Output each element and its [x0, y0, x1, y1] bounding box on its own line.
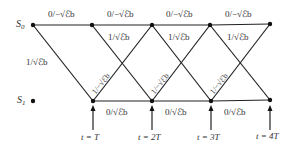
- arrow-head-icon: [268, 105, 273, 111]
- node-s1-t4: [268, 98, 272, 102]
- arrow-head-icon: [91, 105, 96, 111]
- time-label-4: t = 4T: [256, 132, 279, 141]
- node-s1-t2: [150, 99, 154, 103]
- trellis-diagram: [0, 0, 296, 146]
- state-sub: 0: [21, 23, 25, 31]
- state-sub: 1: [22, 99, 26, 107]
- time-label-3: t = 3T: [197, 133, 220, 142]
- top-label-2: 0/−√ℰb: [166, 10, 193, 19]
- down-label-1: 1/√ℰb: [108, 33, 129, 42]
- node-s0-t0: [31, 23, 35, 27]
- state-label-s0: S0: [16, 19, 25, 31]
- arrow-head-icon: [209, 105, 214, 111]
- down-label-2: 1/√ℰb: [168, 33, 189, 42]
- node-s1-t1: [91, 99, 95, 103]
- top-label-3: 0/−√ℰb: [225, 10, 252, 19]
- node-s1-t0: [31, 99, 35, 103]
- node-s0-t4: [268, 22, 272, 26]
- node-s0-t2: [150, 23, 154, 27]
- arrow-head-icon: [150, 105, 155, 111]
- time-label-1: t = T: [81, 133, 99, 142]
- node-s0-t3: [208, 23, 212, 27]
- bottom-label-2: 0/√ℰb: [224, 108, 245, 117]
- node-s0-t1: [90, 23, 94, 27]
- down-label-3: 1/√ℰb: [227, 33, 248, 42]
- top-label-1: 0/−√ℰb: [107, 10, 134, 19]
- bottom-label-0: 0/√ℰb: [106, 108, 127, 117]
- top-branch-3: [210, 24, 270, 25]
- down-label-0: 1/√ℰb: [26, 58, 47, 67]
- time-label-2: t = 2T: [138, 133, 161, 142]
- node-s1-t3: [209, 99, 213, 103]
- bottom-label-1: 0/√ℰb: [165, 108, 186, 117]
- state-label-s1: S1: [17, 95, 26, 107]
- top-label-0: 0/−√ℰb: [48, 10, 75, 19]
- bottom-branch-2: [211, 100, 270, 101]
